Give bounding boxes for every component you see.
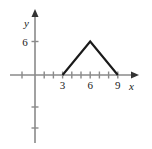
coordinate-plane: 3 6 9 6 x y: [0, 0, 152, 149]
graph-figure: 3 6 9 6 x y: [0, 0, 152, 149]
y-axis-label: y: [23, 17, 29, 29]
y-tick-label-6: 6: [22, 36, 28, 48]
x-axis-arrow-icon: [131, 72, 139, 79]
x-tick-label-3: 3: [60, 79, 66, 91]
x-tick-label-6: 6: [87, 79, 93, 91]
x-tick-label-9: 9: [115, 79, 121, 91]
x-axis-label: x: [128, 80, 134, 92]
data-series-triangle: [63, 42, 118, 76]
y-axis-arrow-icon: [32, 9, 39, 17]
